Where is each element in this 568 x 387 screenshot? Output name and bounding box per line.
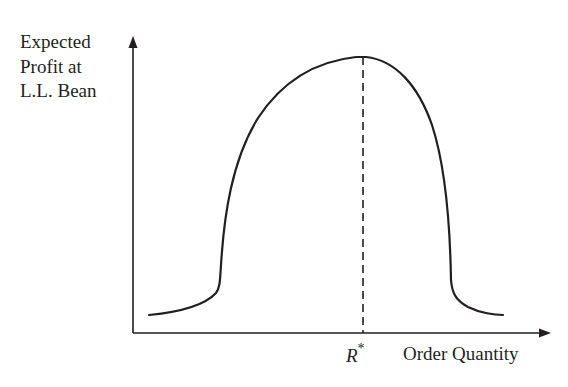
x-axis-arrow-icon [539,329,551,338]
r-star-base: R [346,345,358,366]
chart-canvas [0,0,568,387]
x-axis-label: Order Quantity [403,343,519,365]
y-axis-arrow-icon [129,36,138,48]
expected-profit-curve [149,57,503,315]
r-star-label: R* [346,343,365,367]
r-star-superscript: * [358,341,365,356]
